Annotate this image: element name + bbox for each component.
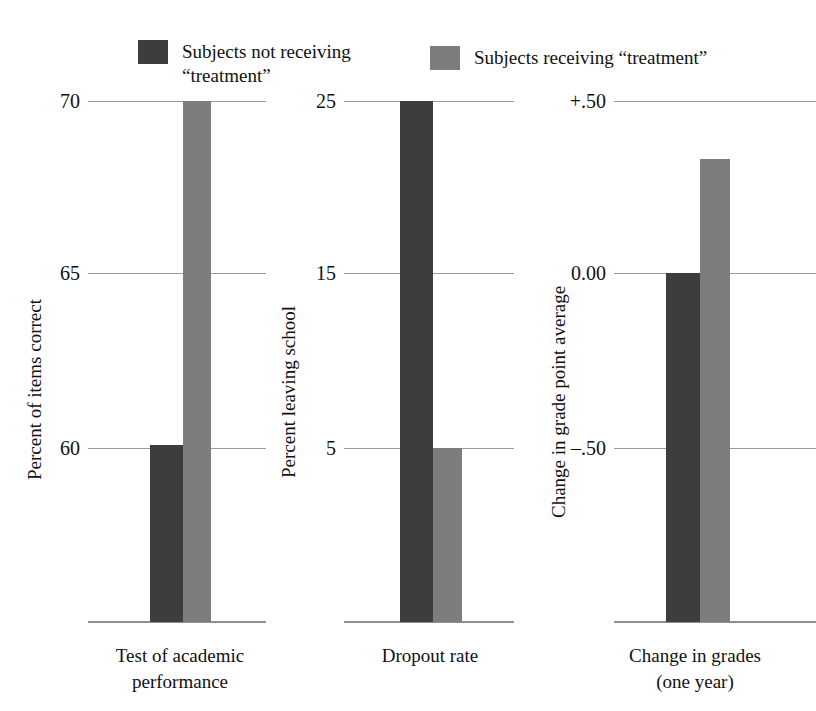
tick-label-3-minus-50: –.50 (534, 438, 606, 458)
gridline-plus-50 (614, 101, 816, 102)
bar-control-3 (666, 273, 700, 622)
plot-area-2 (344, 101, 514, 622)
bar-treated-1 (183, 101, 211, 622)
y-axis-title-3: Change in grade point average (548, 286, 570, 518)
chart-panel-change-in-grades: +.50 0.00 –.50 Change in grade point ave… (540, 0, 816, 711)
gridline-70 (88, 101, 266, 102)
bar-treated-2 (433, 448, 462, 622)
tick-label-1-70: 70 (24, 91, 80, 111)
bar-chart-figure: Subjects not receiving “treatment” Subje… (0, 0, 816, 711)
chart-panel-academic-performance: 70 65 60 Percent of items correct Test o… (0, 0, 300, 711)
plot-area-3 (614, 101, 816, 622)
x-axis-label-3: Change in grades (one year) (580, 643, 810, 695)
plot-area-1 (88, 101, 266, 622)
bar-treated-3 (700, 159, 730, 622)
bar-control-1 (150, 445, 183, 622)
x-axis-label-1: Test of academic performance (55, 643, 305, 695)
tick-label-2-25: 25 (280, 91, 336, 111)
y-axis-title-2: Percent leaving school (278, 306, 300, 478)
tick-label-2-15: 15 (280, 263, 336, 283)
tick-label-3-zero: 0.00 (534, 263, 606, 283)
tick-label-3-plus-50: +.50 (534, 91, 606, 111)
bar-control-2 (400, 101, 433, 622)
tick-label-1-65: 65 (24, 263, 80, 283)
x-axis-label-2: Dropout rate (315, 643, 545, 669)
chart-panel-dropout-rate: 25 15 5 Percent leaving school Dropout r… (270, 0, 550, 711)
y-axis-title-1: Percent of items correct (24, 299, 46, 480)
gridline-65 (88, 273, 266, 274)
